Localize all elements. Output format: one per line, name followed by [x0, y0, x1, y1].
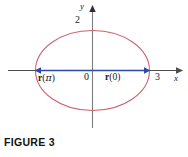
y-axis-label: y — [80, 2, 84, 11]
vector-close-paren-r-zero: ) — [117, 72, 120, 82]
x-axis-label: x — [174, 74, 178, 83]
figure-caption: FIGURE 3 — [4, 137, 55, 148]
figure-container: y x 2 0 3 r(π) r(0) FIGURE 3 — [0, 0, 188, 157]
y-axis-arrowhead — [89, 5, 95, 12]
vector-label-r-zero: r(0) — [105, 73, 120, 83]
plot-area — [0, 0, 188, 132]
x-tick-label-3: 3 — [155, 72, 160, 82]
y-tick-label-2: 2 — [75, 15, 80, 25]
vector-close-paren-r-pi: ) — [52, 73, 55, 83]
coordinate-plot — [0, 0, 188, 132]
vector-label-r-pi: r(π) — [38, 73, 55, 84]
origin-label: 0 — [84, 72, 89, 82]
